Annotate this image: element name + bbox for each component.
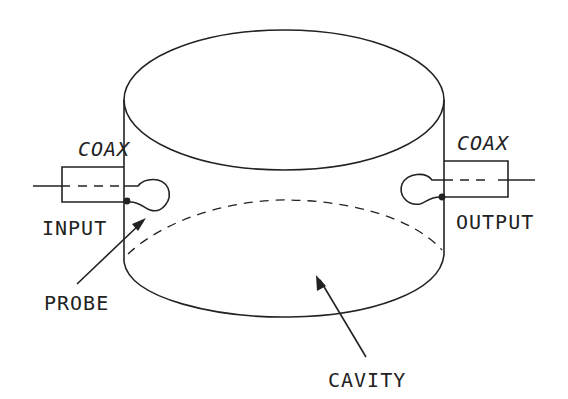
output-coax bbox=[444, 161, 535, 197]
output-probe-junction bbox=[439, 194, 444, 199]
input-label: INPUT bbox=[42, 218, 107, 238]
input-coax bbox=[33, 167, 124, 202]
coax-output-label: COAX bbox=[457, 133, 509, 153]
cavity-hidden-arc bbox=[128, 200, 442, 254]
cavity-top-ellipse bbox=[124, 30, 444, 170]
output-probe-loop bbox=[401, 174, 444, 204]
cavity-label: CAVITY bbox=[328, 370, 406, 390]
probe-label: PROBE bbox=[44, 293, 109, 313]
cavity-diagram bbox=[0, 0, 568, 399]
coax-input-label: COAX bbox=[78, 139, 130, 159]
input-probe-junction bbox=[124, 198, 129, 203]
input-probe-loop bbox=[124, 180, 169, 211]
cavity-bottom-arc bbox=[124, 255, 444, 317]
cavity-arrow-shaft bbox=[320, 280, 366, 357]
output-label: OUTPUT bbox=[456, 212, 534, 232]
